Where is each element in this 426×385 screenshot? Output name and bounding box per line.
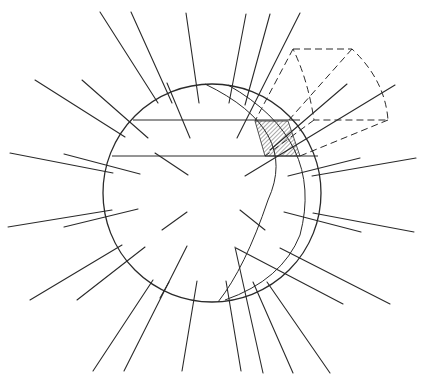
sphere-diagram	[0, 0, 426, 385]
ray-line	[124, 246, 187, 371]
ray-line	[280, 248, 390, 304]
ray-line	[313, 213, 414, 232]
ray-line	[182, 281, 197, 371]
meridian-arc	[205, 84, 276, 302]
ray-line	[167, 83, 190, 138]
frustum-outline	[293, 49, 388, 120]
ray-line	[82, 80, 148, 138]
ray-line	[35, 80, 125, 137]
diagram-svg	[0, 0, 426, 385]
ray-line	[100, 12, 158, 103]
ray-line	[131, 12, 172, 103]
projection-line	[255, 49, 293, 121]
ray-line	[186, 13, 199, 103]
ray-line	[312, 158, 416, 176]
ray-line	[93, 280, 153, 371]
ray-line	[237, 13, 300, 138]
ray-line	[270, 84, 347, 150]
ray-line	[77, 247, 145, 300]
ray-line	[267, 282, 330, 373]
sphere-circle	[103, 84, 321, 302]
ray-line	[235, 247, 263, 373]
projection-line	[300, 120, 388, 156]
radiating-rays	[8, 12, 416, 373]
ray-line	[236, 248, 343, 304]
meridian-arc	[225, 85, 305, 300]
ray-line	[8, 210, 112, 227]
ray-line	[30, 245, 122, 300]
ray-line	[253, 282, 293, 373]
ray-line	[162, 212, 187, 230]
sphere-outline	[103, 84, 321, 302]
ray-line	[229, 14, 246, 103]
ray-line	[245, 14, 270, 105]
